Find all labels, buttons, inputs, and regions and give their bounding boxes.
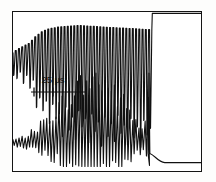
scale-bar-label: 25 µs: [30, 74, 76, 85]
scale-bar-ruler: [30, 86, 88, 98]
oscilloscope-figure: 25 µs: [0, 0, 216, 182]
scale-bar: 25 µs: [30, 74, 88, 100]
